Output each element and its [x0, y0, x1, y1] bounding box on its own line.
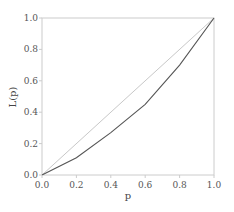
- x-axis-ticks: 0.00.20.40.60.81.0: [35, 175, 222, 190]
- y-tick-label: 0.0: [24, 170, 39, 180]
- y-tick-label: 0.4: [24, 107, 39, 117]
- y-tick-label: 0.6: [24, 76, 39, 86]
- x-tick-label: 0.8: [172, 180, 187, 190]
- y-tick-label: 0.2: [24, 139, 38, 149]
- x-axis-label: p: [125, 190, 131, 201]
- x-tick-label: 0.2: [69, 180, 83, 190]
- y-tick-label: 1.0: [24, 13, 39, 23]
- series-layer: [42, 18, 214, 175]
- x-tick-label: 0.6: [138, 180, 153, 190]
- x-tick-label: 0.4: [104, 180, 119, 190]
- y-axis-ticks: 0.00.20.40.60.81.0: [24, 13, 42, 180]
- y-tick-label: 0.8: [24, 44, 39, 54]
- y-axis-label: L(p): [7, 86, 18, 107]
- equality-line: [42, 18, 214, 175]
- x-tick-label: 1.0: [207, 180, 222, 190]
- lorenz-chart: 0.00.20.40.60.81.0 0.00.20.40.60.81.0 p …: [0, 0, 234, 212]
- x-tick-label: 0.0: [35, 180, 50, 190]
